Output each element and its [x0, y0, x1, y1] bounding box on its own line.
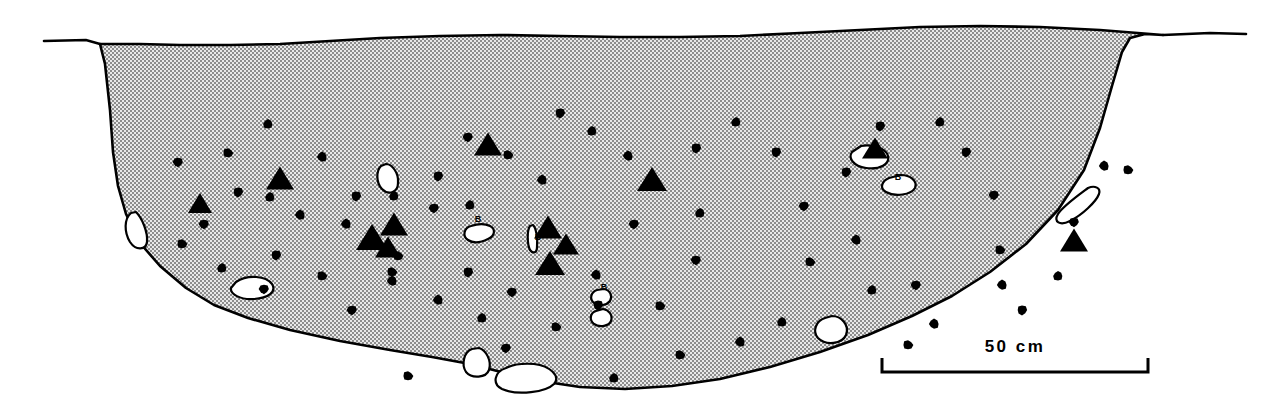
section-drawing-svg: BBBB 50 cm: [0, 0, 1270, 415]
charcoal-dot: [1018, 305, 1027, 315]
charcoal-dot: [929, 319, 939, 329]
bone-label: B: [535, 232, 542, 242]
stone-right-mid: [815, 316, 847, 343]
charcoal-dot: [1053, 271, 1062, 281]
scale-bar: 50 cm: [882, 337, 1148, 372]
lithic-triangle: [1060, 229, 1088, 252]
archaeological-section-figure: BBBB 50 cm: [0, 0, 1270, 415]
scale-bar-label: 50 cm: [985, 337, 1046, 356]
pebble-bottom-left: [464, 348, 490, 377]
charcoal-dot: [903, 340, 913, 349]
pit-fill-group: [100, 26, 1163, 389]
pebble-bottom-elongated: [496, 364, 557, 393]
pit-outline: [100, 26, 1163, 389]
bone-label: B: [895, 172, 902, 182]
ground-line-left: [44, 40, 100, 44]
scale-bar-line: [882, 358, 1148, 372]
bone-lower-center-2: [591, 309, 612, 326]
charcoal-dot: [403, 371, 413, 380]
charcoal-dot: [1099, 161, 1109, 171]
charcoal-dot: [1123, 165, 1133, 174]
bone-label: B: [475, 214, 482, 224]
bone-label: B: [601, 282, 608, 292]
ground-line-right: [1163, 33, 1246, 35]
charcoal-dot: [997, 280, 1007, 290]
